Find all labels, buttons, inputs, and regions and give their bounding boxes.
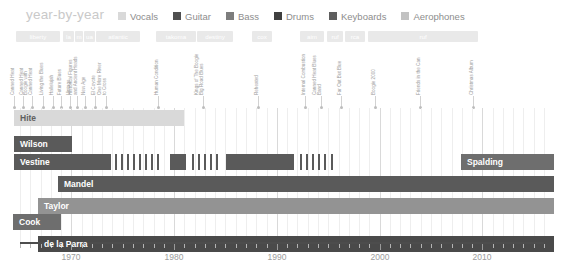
axis-tick xyxy=(184,244,185,248)
album-title: Hallelujah xyxy=(49,35,54,95)
axis-tick xyxy=(143,244,144,248)
axis-tick xyxy=(61,244,62,248)
legend-label: Keyboards xyxy=(341,11,386,22)
record-label-tag[interactable]: takoma xyxy=(156,31,196,42)
album-marker[interactable]: Far Out But Blue xyxy=(337,46,347,108)
album-marker[interactable]: Canned Heat BluesBand xyxy=(317,46,327,108)
legend-swatch-icon xyxy=(401,12,409,20)
axis-tick xyxy=(246,244,247,248)
axis-tick xyxy=(256,244,257,248)
album-marker[interactable]: Reheated xyxy=(254,46,264,108)
axis-tick xyxy=(318,244,319,248)
album-title: Future Blues xyxy=(57,35,62,95)
legend-label: Aerophones xyxy=(413,11,464,22)
member-row[interactable]: Cook xyxy=(0,214,565,230)
axis-tick xyxy=(390,244,391,248)
tenure-segment xyxy=(13,214,61,230)
album-title: Historical Figuresand Ancient Heads xyxy=(68,35,78,95)
tenure-segment xyxy=(461,154,554,170)
album-title-line: Living the Blues xyxy=(39,35,44,95)
album-marker[interactable]: Human Condition xyxy=(154,46,164,108)
axis-tick xyxy=(503,244,504,248)
tenure-segment xyxy=(58,176,554,192)
legend-item-drums[interactable]: Drums xyxy=(274,11,314,22)
legend-label: Vocals xyxy=(130,11,158,22)
axis-tick xyxy=(359,244,360,248)
axis-tick xyxy=(154,244,155,248)
axis-tick-label: 2000 xyxy=(371,252,390,262)
member-row[interactable]: Spalding xyxy=(0,154,565,170)
album-marker[interactable]: Boogie withCanned Heat xyxy=(28,46,38,108)
legend-item-keyboards[interactable]: Keyboards xyxy=(329,11,386,22)
album-title-line: New Age xyxy=(81,35,86,95)
album-marker[interactable]: One More Riverto Cross xyxy=(102,46,112,108)
axis-tick xyxy=(287,244,288,248)
member-row[interactable]: Hite xyxy=(0,110,565,126)
axis-tick-label: 1970 xyxy=(62,252,81,262)
record-label-tag[interactable]: ruf xyxy=(368,31,478,42)
legend-item-aerophones[interactable]: Aerophones xyxy=(401,11,464,22)
tenure-segment xyxy=(38,198,554,214)
axis-tick xyxy=(297,244,298,248)
album-title: New Age xyxy=(81,35,86,95)
member-rows: HiteWilsonVestineSpaldingMandelTaylorCoo… xyxy=(0,108,565,242)
album-marker[interactable]: Internal Combustion xyxy=(301,46,311,108)
axis-tick xyxy=(92,244,93,248)
album-title: Kings of The BoogieBig Road Blues xyxy=(194,35,204,95)
album-marker[interactable]: New Age xyxy=(81,46,91,108)
legend-label: Bass xyxy=(238,11,259,22)
axis-tick xyxy=(71,244,72,250)
album-marker[interactable]: Living the Blues xyxy=(39,46,49,108)
legend-item-vocals[interactable]: Vocals xyxy=(118,11,158,22)
legend-item-guitar[interactable]: Guitar xyxy=(173,11,211,22)
axis-tick xyxy=(513,244,514,248)
axis-tick xyxy=(544,244,545,248)
axis-tick xyxy=(482,244,483,250)
album-title-line: Canned Heat xyxy=(10,35,15,95)
axis-tick xyxy=(380,244,381,250)
album-marker[interactable]: Christmas Album xyxy=(469,46,479,108)
axis-tick xyxy=(102,244,103,248)
album-title-line: Canned Heat xyxy=(28,35,33,95)
album-title-line: and Ancient Heads xyxy=(73,35,78,95)
album-title-line: Christmas Album xyxy=(469,35,474,95)
member-row[interactable]: Taylor xyxy=(0,198,565,214)
album-title: Human Condition xyxy=(154,35,159,95)
record-label-tag[interactable]: rca xyxy=(345,31,365,42)
album-marker[interactable]: Kings of The BoogieBig Road Blues xyxy=(199,46,209,108)
legend-swatch-icon xyxy=(226,12,234,20)
album-title-line: Internal Combustion xyxy=(301,35,306,95)
album-title-line: Future Blues xyxy=(57,35,62,95)
axis-tick xyxy=(431,244,432,248)
axis-tick xyxy=(472,244,473,248)
axis-tick xyxy=(277,244,278,250)
legend-swatch-icon xyxy=(118,12,126,20)
album-title-line: Friends in the Can xyxy=(416,35,421,95)
album-title: One More Riverto Cross xyxy=(97,35,107,95)
timeline-plot: HiteWilsonVestineSpaldingMandelTaylorCoo… xyxy=(0,108,565,242)
album-title-line: Reheated xyxy=(254,35,259,95)
album-marker[interactable]: Friends in the Can xyxy=(416,46,426,108)
album-title-line: Human Condition xyxy=(154,35,159,95)
legend-swatch-icon xyxy=(173,12,181,20)
axis-tick xyxy=(41,244,42,248)
axis-line xyxy=(20,242,544,244)
album-title: Reheated xyxy=(254,35,259,95)
axis-tick xyxy=(349,244,350,248)
axis-tick xyxy=(82,244,83,248)
legend-swatch-icon xyxy=(274,12,282,20)
album-markers: Canned HeatCanned HeatBoogie withCanned … xyxy=(0,46,565,108)
legend-item-bass[interactable]: Bass xyxy=(226,11,259,22)
axis-tick-label: 1990 xyxy=(268,252,287,262)
album-title: Far Out But Blue xyxy=(337,35,342,95)
member-row[interactable]: Mandel xyxy=(0,176,565,192)
member-row[interactable]: Wilson xyxy=(0,136,565,152)
axis-tick xyxy=(195,244,196,248)
axis-tick xyxy=(20,244,21,248)
axis-tick xyxy=(225,244,226,248)
axis-tick xyxy=(339,244,340,248)
legend-label: Guitar xyxy=(185,11,211,22)
axis-tick xyxy=(215,244,216,248)
album-marker[interactable]: Boogie 2000 xyxy=(371,46,381,108)
album-title: Canned Heat xyxy=(10,35,15,95)
